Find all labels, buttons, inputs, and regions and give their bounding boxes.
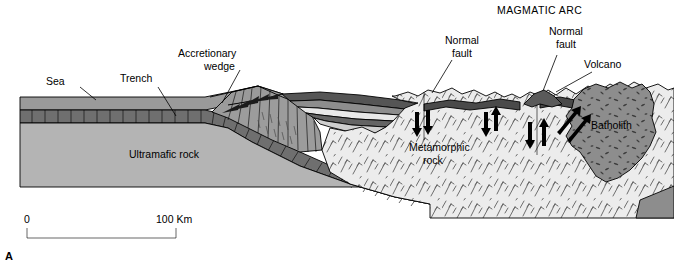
label-trench: Trench [120, 72, 152, 84]
label-normal-fault-2-line1: Normal [549, 25, 583, 37]
scale-bar: 0 100 Km [24, 213, 192, 238]
scale-bar-end-label: 100 Km [156, 213, 192, 225]
label-normal-fault-2-line2: fault [556, 38, 576, 50]
panel-label: A [5, 250, 13, 262]
label-metamorphic-rock-line2: rock [423, 154, 444, 166]
label-sea: Sea [46, 75, 65, 87]
label-ultramafic-rock: Ultramafic rock [129, 148, 200, 160]
scale-bar-start-label: 0 [24, 213, 30, 225]
label-magmatic-arc: MAGMATIC ARC [497, 4, 582, 16]
scale-bar-line [27, 228, 176, 238]
label-volcano: Volcano [584, 58, 622, 70]
label-metamorphic-rock-line1: Metamorphic [409, 141, 470, 153]
annotation-sea: Sea [46, 75, 96, 100]
figure-root: Ultramafic rock [0, 0, 674, 266]
label-batholith: Batholith [591, 119, 632, 131]
label-accretionary-wedge-line2: wedge [203, 60, 235, 72]
cross-section-diagram: Ultramafic rock [0, 0, 674, 266]
label-normal-fault-1-line1: Normal [445, 34, 479, 46]
label-accretionary-wedge-line1: Accretionary [178, 47, 237, 59]
label-normal-fault-1-line2: fault [452, 47, 472, 59]
leader-normal-fault-1 [432, 60, 452, 93]
